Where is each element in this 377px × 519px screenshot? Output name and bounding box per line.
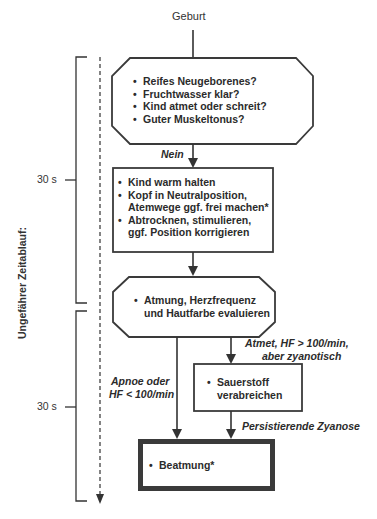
initial-step-item: Kopf in Neutralposition, (128, 189, 247, 201)
initial-step-item: Kind warm halten (128, 176, 216, 188)
edge-label-cyanotic-2: aber zyanotisch (262, 350, 341, 363)
initial-step-item: Atemwege ggf. frei machen* (128, 201, 269, 213)
assessment-item: Guter Muskeltonus? (133, 113, 267, 126)
start-label: Geburt (172, 10, 206, 22)
edge-label-persistent: Persistierende Zyanose (242, 420, 360, 433)
initial-steps-list: •Kind warm halten •Kopf in Neutralpositi… (118, 176, 269, 239)
oxygen-line-2: verabreichen (217, 389, 282, 401)
assessment-item: Kind atmet oder schreit? (133, 100, 267, 113)
oxygen-text: •Sauerstoff verabreichen (207, 376, 282, 401)
timeline-dashed-arrow (96, 57, 104, 504)
initial-step-item: ggf. Position korrigieren (128, 226, 249, 238)
edge-label-apnea-2: HF < 100/min (109, 388, 174, 401)
evaluate-text: •Atmung, Herzfrequenz und Hautfarbe eval… (134, 294, 270, 319)
ventilation-label: Beatmung* (159, 459, 214, 471)
evaluate-line-1: Atmung, Herzfrequenz (144, 294, 256, 306)
edge-label-no: Nein (161, 148, 184, 161)
timeline-bracket-1 (65, 57, 87, 303)
assessment-item: Reifes Neugeborenes? (133, 75, 267, 88)
edge-label-cyanotic-1: Atmet, HF > 100/min, (245, 337, 349, 350)
timeline-axis-label: Ungefährer Zeitablauf: (16, 227, 28, 339)
assessment-item: Fruchtwasser klar? (133, 88, 267, 101)
ventilation-text: •Beatmung* (149, 459, 214, 472)
edge-label-apnea-1: Apnoe oder (111, 375, 169, 388)
oxygen-line-1: Sauerstoff (217, 376, 269, 388)
timeline-bracket-2 (65, 311, 87, 501)
initial-step-item: Abtrocknen, stimulieren, (128, 214, 251, 226)
evaluate-line-2: und Hautfarbe evaluieren (144, 307, 270, 319)
assessment-questions: Reifes Neugeborenes? Fruchtwasser klar? … (133, 75, 267, 125)
timeline-tick-1-label: 30 s (37, 173, 57, 185)
timeline-tick-2-label: 30 s (37, 400, 57, 412)
